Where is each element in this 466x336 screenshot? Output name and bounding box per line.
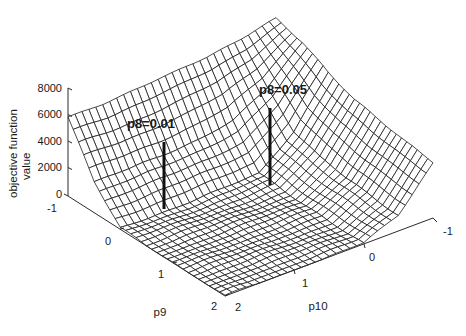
z-tick-label: 8000 bbox=[38, 82, 62, 94]
z-axis-title-line1: objective function bbox=[7, 109, 19, 198]
z-tick-label: 6000 bbox=[38, 108, 62, 120]
z-tick-label: 2000 bbox=[38, 161, 62, 173]
surface-plot: 0 2000 4000 6000 8000 objective function… bbox=[0, 0, 466, 336]
annotation-label: p8=0.01 bbox=[127, 116, 175, 131]
p9-tick-label: -1 bbox=[47, 202, 57, 214]
p10-tick-label: 2 bbox=[235, 301, 241, 313]
p10-tick-label: 0 bbox=[369, 251, 375, 263]
p10-tick bbox=[433, 218, 437, 222]
p9-tick-label: 0 bbox=[105, 235, 111, 247]
p10-tick-label: -1 bbox=[443, 225, 453, 237]
z-tick bbox=[64, 194, 68, 196]
p9-tick-label: 1 bbox=[158, 268, 164, 280]
p10-tick bbox=[364, 244, 365, 248]
z-axis: 0 2000 4000 6000 8000 objective function… bbox=[7, 82, 72, 200]
p9-axis-title: p9 bbox=[154, 306, 167, 318]
z-tick-label: 0 bbox=[56, 188, 62, 200]
z-tick bbox=[68, 88, 72, 90]
z-axis-title-line2: value bbox=[20, 153, 32, 181]
z-tick bbox=[68, 168, 72, 170]
p10-axis-title: p10 bbox=[308, 300, 327, 312]
p10-tick bbox=[294, 270, 295, 274]
p9-tick-label: 2 bbox=[211, 300, 217, 312]
annotation-label: p8=0.05 bbox=[259, 82, 307, 97]
p10-tick-label: 1 bbox=[302, 277, 308, 289]
z-tick bbox=[68, 141, 72, 143]
z-tick-label: 4000 bbox=[38, 135, 62, 147]
wireframe-surface bbox=[68, 18, 433, 296]
z-axis-title: objective function value bbox=[7, 109, 32, 198]
